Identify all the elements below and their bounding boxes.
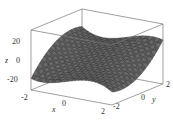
surface-mesh	[31, 27, 163, 93]
x-tick-0: 0	[62, 100, 66, 108]
surface-plot	[0, 0, 173, 121]
y-axis-label: y	[152, 96, 156, 104]
y-tick-neg2: -2	[113, 103, 120, 111]
x-tick-neg2: -2	[21, 94, 28, 102]
y-tick-2: 2	[166, 81, 170, 89]
z-tick-20: 20	[12, 38, 20, 46]
z-tick-neg20: -20	[7, 76, 18, 84]
y-tick-0: 0	[141, 94, 145, 102]
z-axis-label: z	[5, 57, 8, 65]
x-axis-label: x	[52, 106, 56, 114]
z-tick-0: 0	[16, 57, 20, 65]
x-tick-2: 2	[101, 108, 105, 116]
